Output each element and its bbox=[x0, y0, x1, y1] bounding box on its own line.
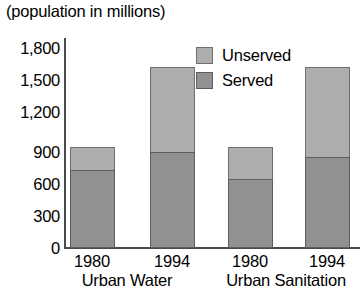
bar-stack[interactable] bbox=[70, 147, 115, 248]
y-axis-tick-600: 600 bbox=[2, 176, 60, 193]
bar-stack[interactable] bbox=[228, 147, 273, 248]
y-axis-tick-1800: 1,800 bbox=[2, 40, 60, 57]
legend-item-unserved[interactable]: Unserved bbox=[196, 44, 356, 66]
y-axis-tick-900: 900 bbox=[2, 144, 60, 161]
y-axis-tick-labels: 1,800 1,500 1,200 900 600 300 0 bbox=[0, 0, 60, 294]
legend-label-unserved: Unserved bbox=[222, 47, 291, 64]
x-axis-tick-urban-sanitation-1980: 1980 bbox=[215, 252, 285, 270]
bar-stack[interactable] bbox=[150, 67, 195, 248]
x-axis-group-label-urban-water: Urban Water bbox=[52, 271, 202, 289]
x-axis-tick-urban-water-1980: 1980 bbox=[57, 252, 127, 270]
bar-segment-served[interactable] bbox=[305, 157, 350, 248]
x-axis-group-label-urban-sanitation: Urban Sanitation bbox=[208, 271, 364, 289]
bar-segment-unserved[interactable] bbox=[150, 67, 195, 152]
bar-segment-unserved[interactable] bbox=[228, 147, 273, 179]
x-axis-tick-urban-water-1994: 1994 bbox=[137, 252, 207, 270]
legend-item-served[interactable]: Served bbox=[196, 69, 356, 91]
bar-segment-served[interactable] bbox=[228, 179, 273, 248]
legend: Unserved Served bbox=[196, 44, 356, 94]
y-axis-tick-0: 0 bbox=[2, 240, 60, 257]
x-axis-tick-urban-sanitation-1994: 1994 bbox=[292, 252, 362, 270]
legend-swatch-icon-served bbox=[196, 72, 213, 89]
bar-segment-served[interactable] bbox=[150, 152, 195, 248]
y-axis-tick-1500: 1,500 bbox=[2, 72, 60, 89]
bar-segment-unserved[interactable] bbox=[70, 147, 115, 170]
legend-label-served: Served bbox=[222, 72, 273, 89]
legend-swatch-icon-unserved bbox=[196, 47, 213, 64]
y-axis-tick-1200: 1,200 bbox=[2, 104, 60, 121]
y-axis-tick-300: 300 bbox=[2, 208, 60, 225]
bar-segment-served[interactable] bbox=[70, 170, 115, 248]
bar-chart: (population in millions) 1,800 1,500 1,2… bbox=[0, 0, 364, 294]
